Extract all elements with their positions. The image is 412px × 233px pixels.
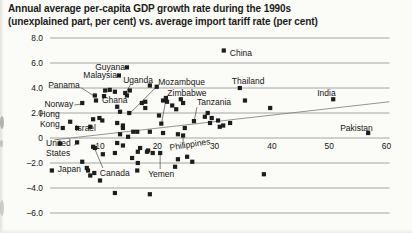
data-point xyxy=(115,105,119,109)
country-label: Ghana xyxy=(102,95,128,105)
y-tick-label: 8.0 xyxy=(31,33,43,43)
y-tick-label: 6.0 xyxy=(31,58,43,68)
data-point xyxy=(80,101,84,105)
data-point xyxy=(108,88,112,92)
data-point xyxy=(158,151,162,155)
data-point xyxy=(135,168,139,172)
data-point xyxy=(146,148,150,152)
data-point xyxy=(92,171,96,175)
data-point xyxy=(183,126,187,130)
data-point xyxy=(222,48,226,52)
trend-line xyxy=(54,102,389,140)
data-point xyxy=(143,106,147,110)
figure: Annual average per-capita GDP growth rat… xyxy=(0,0,412,233)
data-point xyxy=(61,126,65,130)
data-point xyxy=(115,121,119,125)
country-label: Canada xyxy=(100,168,130,178)
data-point xyxy=(125,65,129,69)
data-point xyxy=(216,118,220,122)
data-point xyxy=(159,122,163,126)
data-point xyxy=(135,130,139,134)
data-point xyxy=(210,116,214,120)
country-label: United xyxy=(46,138,71,148)
data-point xyxy=(170,103,174,107)
data-point xyxy=(130,156,134,160)
data-point xyxy=(161,131,165,135)
country-label: Zimbabwe xyxy=(167,88,206,98)
scan-smudge xyxy=(0,116,4,129)
y-tick-label: –6.0 xyxy=(27,208,44,218)
data-point xyxy=(94,98,98,102)
country-label: States xyxy=(46,148,70,158)
country-label: Philippines xyxy=(169,136,211,152)
data-point xyxy=(203,115,207,119)
country-label: India xyxy=(317,88,336,98)
country-label: Panama xyxy=(48,80,80,90)
data-point xyxy=(228,121,232,125)
data-point xyxy=(138,146,142,150)
data-point xyxy=(127,111,131,115)
y-tick-label: –4.0 xyxy=(27,183,44,193)
data-point xyxy=(101,152,105,156)
country-label: Japan xyxy=(58,164,81,174)
country-label: Uganda xyxy=(123,75,153,85)
data-point xyxy=(190,160,194,164)
scan-smudge xyxy=(0,140,3,147)
data-point xyxy=(176,132,180,136)
data-point xyxy=(126,135,130,139)
data-point xyxy=(113,90,117,94)
data-point xyxy=(208,121,212,125)
data-point xyxy=(143,100,147,104)
data-point xyxy=(181,101,185,105)
data-point xyxy=(206,111,210,115)
scan-bottom-artifact xyxy=(0,229,412,233)
data-point xyxy=(262,172,266,176)
country-label: Mozambque xyxy=(158,77,205,87)
data-point xyxy=(103,88,107,92)
data-point xyxy=(148,130,152,134)
country-label: Yemen xyxy=(148,169,174,179)
data-point xyxy=(238,86,242,90)
country-label: Norway xyxy=(44,99,74,109)
data-point xyxy=(136,161,140,165)
country-label: Israel xyxy=(75,123,96,133)
data-point xyxy=(131,130,135,134)
data-point xyxy=(86,168,90,172)
y-tick-label: 4.0 xyxy=(31,83,43,93)
data-point xyxy=(148,192,152,196)
data-point xyxy=(50,168,54,172)
data-point xyxy=(113,191,117,195)
data-point xyxy=(93,146,97,150)
country-label: Tanzania xyxy=(197,97,231,107)
leader-line xyxy=(95,149,103,168)
data-point xyxy=(113,151,117,155)
x-tick-label: 60 xyxy=(382,141,392,151)
data-point xyxy=(128,88,132,92)
data-point xyxy=(157,113,161,117)
data-point xyxy=(218,125,222,129)
data-point xyxy=(268,106,272,110)
data-point xyxy=(179,97,183,101)
data-point xyxy=(68,120,72,124)
data-point xyxy=(98,178,102,182)
data-point xyxy=(88,173,92,177)
x-tick-label: 30 xyxy=(210,141,220,151)
y-tick-label: 0 xyxy=(38,133,43,143)
x-tick-label: 20 xyxy=(153,141,163,151)
data-point xyxy=(185,155,189,159)
data-point xyxy=(243,98,247,102)
data-point xyxy=(91,117,95,121)
country-label: Malaysia xyxy=(83,70,117,80)
data-point xyxy=(181,133,185,137)
data-point xyxy=(117,73,121,77)
x-tick-label: 40 xyxy=(267,141,277,151)
scatter-plot: 8.06.04.02.00–2.0–4.0–6.0102030405060Chi… xyxy=(0,0,412,233)
data-point xyxy=(174,107,178,111)
data-point xyxy=(192,119,196,123)
data-point xyxy=(176,157,180,161)
data-point xyxy=(100,118,104,122)
country-label: China xyxy=(230,48,252,58)
data-point xyxy=(121,143,125,147)
data-point xyxy=(151,151,155,155)
scan-smudge xyxy=(0,200,4,216)
